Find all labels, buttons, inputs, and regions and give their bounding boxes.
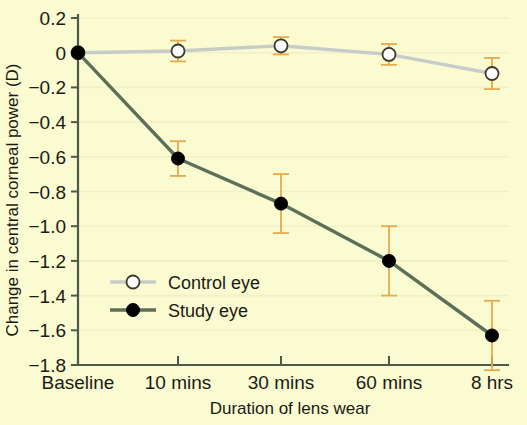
legend-label: Study eye bbox=[168, 301, 248, 321]
legend-marker-open-circle bbox=[127, 276, 140, 289]
data-point-filled-circle[interactable] bbox=[172, 152, 185, 165]
data-point-filled-circle[interactable] bbox=[275, 197, 288, 210]
y-tick-label: −1.0 bbox=[28, 216, 66, 237]
legend-label: Control eye bbox=[168, 273, 260, 293]
data-point-open-circle[interactable] bbox=[172, 45, 185, 58]
y-tick-label: 0.2 bbox=[40, 8, 66, 29]
y-tick-label: −0.6 bbox=[28, 147, 66, 168]
x-tick-label: 30 mins bbox=[248, 372, 315, 393]
x-tick-label: 60 mins bbox=[356, 372, 423, 393]
x-tick-label: 8 hrs bbox=[471, 372, 513, 393]
data-point-open-circle[interactable] bbox=[383, 48, 396, 61]
data-point-filled-circle[interactable] bbox=[72, 46, 85, 59]
chart-figure: 0.20−0.2−0.4−0.6−0.8−1.0−1.2−1.4−1.6−1.8… bbox=[0, 0, 527, 425]
y-tick-label: 0 bbox=[55, 43, 66, 64]
data-point-open-circle[interactable] bbox=[275, 39, 288, 52]
y-tick-label: −1.2 bbox=[28, 251, 66, 272]
y-tick-label: −1.4 bbox=[28, 286, 66, 307]
x-tick-label: Baseline bbox=[42, 372, 115, 393]
y-tick-label: −0.4 bbox=[28, 112, 66, 133]
x-axis-title: Duration of lens wear bbox=[210, 399, 371, 418]
data-point-filled-circle[interactable] bbox=[486, 329, 499, 342]
line-chart: 0.20−0.2−0.4−0.6−0.8−1.0−1.2−1.4−1.6−1.8… bbox=[0, 0, 527, 425]
y-tick-label: −0.2 bbox=[28, 77, 66, 98]
y-tick-label: −1.6 bbox=[28, 320, 66, 341]
x-tick-label: 10 mins bbox=[145, 372, 212, 393]
y-axis-title: Change in central corneal power (D) bbox=[3, 63, 22, 336]
legend-marker-filled-circle bbox=[127, 304, 140, 317]
data-point-open-circle[interactable] bbox=[486, 67, 499, 80]
y-tick-label: −0.8 bbox=[28, 182, 66, 203]
data-point-filled-circle[interactable] bbox=[383, 254, 396, 267]
